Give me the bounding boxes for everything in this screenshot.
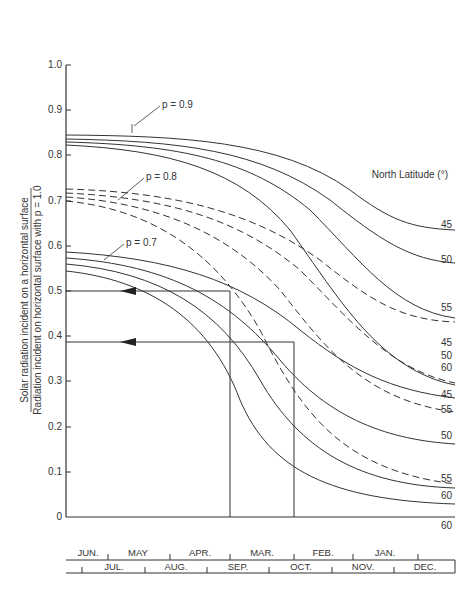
svg-text:0.6: 0.6	[48, 240, 62, 251]
series-p07	[66, 252, 455, 504]
svg-text:60: 60	[441, 520, 453, 531]
svg-text:0.9: 0.9	[48, 104, 62, 115]
svg-text:60: 60	[441, 490, 453, 501]
y-axis-label: Solar radiation incident on a horizontal…	[19, 185, 43, 415]
svg-text:FEB.: FEB.	[312, 547, 333, 558]
svg-text:p = 0.8: p = 0.8	[146, 171, 177, 182]
svg-text:p = 0.7: p = 0.7	[126, 237, 157, 248]
svg-text:0: 0	[56, 511, 62, 522]
svg-text:Radiation incident on horizont: Radiation incident on horizontal surface…	[32, 185, 43, 415]
svg-text:JUN.: JUN.	[77, 547, 98, 558]
svg-text:50: 50	[441, 350, 453, 361]
svg-text:JUL.: JUL.	[104, 561, 124, 572]
p-annotations: p = 0.9 p = 0.8 p = 0.7	[104, 99, 193, 260]
svg-text:JAN.: JAN.	[375, 547, 396, 558]
svg-text:50: 50	[441, 430, 453, 441]
svg-text:45: 45	[441, 219, 453, 230]
svg-text:p = 0.9: p = 0.9	[162, 99, 193, 110]
svg-text:45: 45	[441, 389, 453, 400]
svg-text:North Latitude (°): North Latitude (°)	[372, 169, 448, 180]
month-band-1: JUN. MAY APR. MAR. FEB. JAN.	[66, 547, 455, 560]
svg-text:OCT.: OCT.	[290, 561, 312, 572]
svg-text:MAY: MAY	[128, 547, 149, 558]
svg-text:45: 45	[441, 337, 453, 348]
svg-text:60: 60	[441, 362, 453, 373]
svg-text:0.5: 0.5	[48, 285, 62, 296]
svg-text:55: 55	[441, 302, 453, 313]
svg-text:50: 50	[441, 254, 453, 265]
series-p08	[66, 189, 455, 484]
svg-text:55: 55	[441, 404, 453, 415]
svg-text:DEC.: DEC.	[414, 561, 437, 572]
svg-text:Solar radiation incident on a: Solar radiation incident on a horizontal…	[19, 197, 30, 403]
svg-text:0.4: 0.4	[48, 330, 62, 341]
svg-text:0.7: 0.7	[48, 195, 62, 206]
svg-text:NOV.: NOV.	[352, 561, 374, 572]
svg-text:MAR.: MAR.	[250, 547, 274, 558]
svg-text:0.1: 0.1	[48, 466, 62, 477]
reference-lines	[66, 287, 294, 517]
y-tick-labels: 0 0.1 0.2 0.3 0.4 0.5 0.6 0.7 0.8 0.9 1.…	[48, 59, 62, 522]
svg-text:0.2: 0.2	[48, 421, 62, 432]
svg-text:APR.: APR.	[189, 547, 211, 558]
svg-text:55: 55	[441, 473, 453, 484]
y-ticks	[66, 65, 71, 472]
svg-text:0.3: 0.3	[48, 375, 62, 386]
svg-text:AUG.: AUG.	[164, 561, 187, 572]
svg-text:SEP.: SEP.	[228, 561, 248, 572]
svg-text:0.8: 0.8	[48, 149, 62, 160]
solar-radiation-chart: 0 0.1 0.2 0.3 0.4 0.5 0.6 0.7 0.8 0.9 1.…	[0, 0, 459, 602]
month-band-2: JUL. AUG. SEP. OCT. NOV. DEC.	[66, 560, 455, 573]
svg-text:1.0: 1.0	[48, 59, 62, 70]
